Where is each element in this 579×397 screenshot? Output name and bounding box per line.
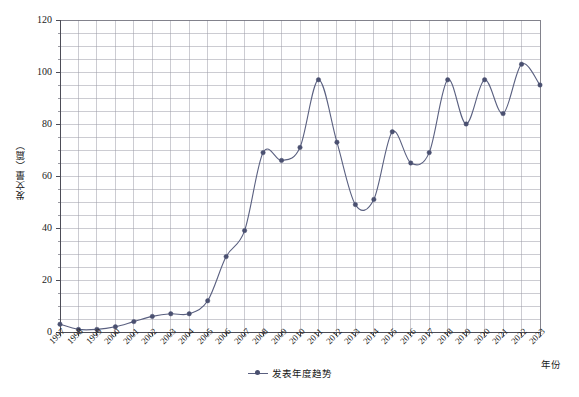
chart-legend: 发表年度趋势	[0, 366, 579, 380]
y-axis-ticks	[56, 20, 60, 332]
y-tick-label: 100	[26, 66, 52, 77]
legend-line-marker-icon	[248, 369, 268, 377]
legend-label: 发表年度趋势	[272, 369, 332, 379]
y-tick-label: 20	[26, 274, 52, 285]
y-tick-label: 0	[26, 326, 52, 337]
publication-trend-line-chart: 发文量（篇） 年份 020406080100120 19971998199920…	[0, 0, 579, 397]
y-tick-label: 120	[26, 14, 52, 25]
y-tick-label: 40	[26, 222, 52, 233]
y-tick-label: 80	[26, 118, 52, 129]
legend-item-publication-trend: 发表年度趋势	[248, 366, 332, 380]
y-tick-label: 60	[26, 170, 52, 181]
